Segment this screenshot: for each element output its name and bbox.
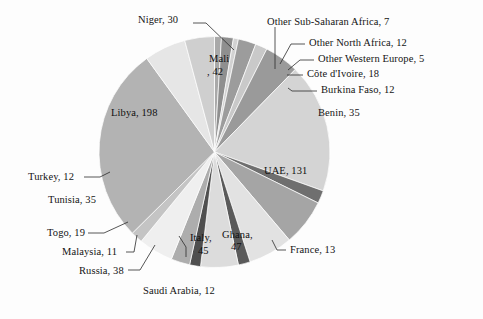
pie-label-ghana-name: Ghana, xyxy=(222,229,253,241)
pie-label-other-western-europe: Other Western Europe, 5 xyxy=(318,53,424,65)
pie-label-saudi-arabia: Saudi Arabia, 12 xyxy=(143,285,215,297)
pie-label-niger: Niger, 30 xyxy=(138,14,178,26)
pie-chart-figure: Niger, 30 Other Sub-Saharan Africa, 7 Ot… xyxy=(0,0,483,319)
pie-label-malaysia: Malaysia, 11 xyxy=(62,246,117,258)
pie-label-france: France, 13 xyxy=(290,244,335,256)
leader-line-malaysia xyxy=(126,235,137,252)
pie-label-mali-name: Mali xyxy=(209,53,229,65)
pie-label-mali-value: , 42 xyxy=(207,66,223,78)
pie-label-ghana-value: 47 xyxy=(231,241,242,253)
pie-label-benin: Benin, 35 xyxy=(318,107,360,119)
pie-label-cote-divoire: Côte d'Ivoire, 18 xyxy=(307,68,379,80)
pie-label-togo: Togo, 19 xyxy=(47,227,85,239)
pie-label-libya: Libya, 198 xyxy=(111,107,158,119)
pie-label-burkina-faso: Burkina Faso, 12 xyxy=(321,84,395,96)
pie-chart-svg xyxy=(0,0,483,319)
pie-label-other-north-africa: Other North Africa, 12 xyxy=(309,37,407,49)
pie-label-italy-name: Italy, xyxy=(190,232,212,244)
pie-label-tunisia: Tunisia, 35 xyxy=(48,194,96,206)
pie-label-russia: Russia, 38 xyxy=(79,265,124,277)
pie-label-turkey: Turkey, 12 xyxy=(28,171,74,183)
pie-label-uae: UAE, 131 xyxy=(264,165,307,177)
pie-label-italy-value: 45 xyxy=(198,245,209,257)
leader-line-togo xyxy=(88,222,128,233)
pie-label-other-sub-saharan-africa: Other Sub-Saharan Africa, 7 xyxy=(267,16,389,28)
